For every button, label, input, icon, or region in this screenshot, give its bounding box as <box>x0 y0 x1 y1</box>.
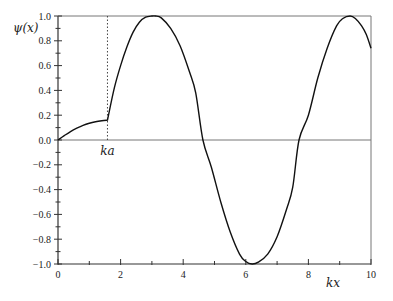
y-tick-label: 0.8 <box>39 35 52 46</box>
x-tick-label: 10 <box>366 269 376 280</box>
ka-label: ka <box>100 144 114 158</box>
x-tick-label: 6 <box>243 269 248 280</box>
y-tick-label: −0.6 <box>33 209 51 220</box>
y-axis-label: ψ(x) <box>13 21 39 35</box>
y-tick-label: −0.4 <box>33 184 51 195</box>
x-tick-label: 8 <box>306 269 311 280</box>
x-axis-label: kx <box>326 276 340 290</box>
y-tick-label: −0.8 <box>33 234 51 245</box>
annotations: ka <box>100 16 114 158</box>
plot-frame <box>58 16 371 264</box>
y-tick-label: 0.4 <box>39 85 52 96</box>
x-tick-label: 4 <box>181 269 186 280</box>
y-tick-label: −0.2 <box>33 159 51 170</box>
y-tick-label: 0.2 <box>39 110 52 121</box>
wavefunction-chart: −1.0−0.8−0.6−0.4−0.20.00.20.40.60.81.002… <box>0 0 393 301</box>
y-tick-label: 0.6 <box>39 60 52 71</box>
y-tick-label: 1.0 <box>39 11 52 22</box>
y-tick-label: −1.0 <box>33 259 51 270</box>
y-tick-label: 0.0 <box>39 135 52 146</box>
x-tick-label: 0 <box>56 269 61 280</box>
x-tick-label: 2 <box>118 269 123 280</box>
